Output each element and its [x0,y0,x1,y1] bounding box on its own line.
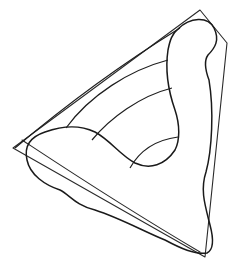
diagram-canvas [0,0,234,266]
three-arm-blob [26,19,216,253]
outer-edge-bottom-inner [22,140,200,252]
arc-2 [92,88,172,140]
diagram-svg [0,0,234,266]
arc-outer-tangent [15,28,180,148]
